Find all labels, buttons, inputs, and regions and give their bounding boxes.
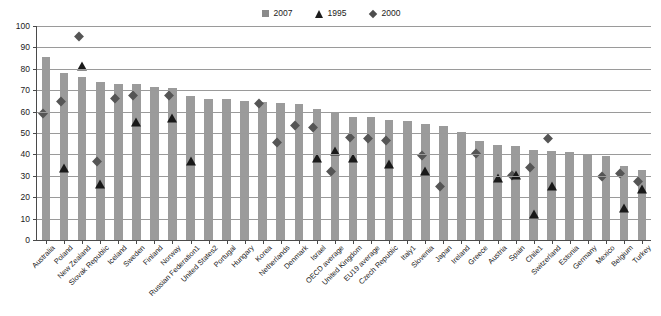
plot-area (36, 26, 651, 241)
gridline (37, 219, 651, 220)
bar-2007 (511, 146, 520, 240)
y-tick-mark (33, 90, 37, 91)
y-tick-mark (33, 219, 37, 220)
gridline (37, 154, 651, 155)
bar-2007 (403, 121, 412, 240)
chart-container: 200719952000 0102030405060708090100 Aust… (0, 0, 661, 316)
y-tick-mark (33, 240, 37, 241)
y-tick-label: 40 (21, 149, 30, 159)
y-tick-label: 0 (25, 235, 30, 245)
gridline (37, 176, 651, 177)
bar-2007 (421, 124, 430, 240)
y-tick-mark (33, 112, 37, 113)
chart-legend: 200719952000 (0, 4, 661, 22)
bar-2007 (42, 57, 51, 240)
legend-entry-2000: 2000 (368, 9, 400, 18)
y-tick-label: 20 (21, 192, 30, 202)
y-tick-label: 10 (21, 214, 30, 224)
y-tick-label: 60 (21, 107, 30, 117)
bar-2007 (565, 152, 574, 240)
marker-1995 (59, 164, 69, 173)
y-tick-mark (33, 133, 37, 134)
square-marker-icon (261, 9, 270, 18)
marker-1995 (529, 210, 539, 219)
gridline (37, 26, 651, 27)
marker-1995 (493, 173, 503, 182)
bar-2007 (547, 151, 556, 240)
x-axis-label: Austria (486, 244, 508, 266)
x-axis-label: Turkey (631, 244, 652, 265)
y-tick-mark (33, 176, 37, 177)
legend-label: 2000 (381, 9, 400, 18)
x-axis-label: Australia (31, 244, 57, 270)
legend-label: 2007 (274, 9, 293, 18)
y-tick-label: 90 (21, 42, 30, 52)
marker-1995 (637, 185, 647, 194)
y-tick-mark (33, 26, 37, 27)
y-tick-mark (33, 197, 37, 198)
diamond-marker-icon (368, 9, 377, 18)
x-axis-label: Greece (467, 244, 489, 266)
marker-1995 (384, 159, 394, 168)
y-tick-label: 70 (21, 85, 30, 95)
bar-2007 (150, 87, 159, 240)
legend-label: 1995 (328, 9, 347, 18)
x-axis-label: Spain (507, 244, 526, 263)
marker-1995 (95, 180, 105, 189)
x-axis-labels: AustraliaPolandNew ZealandSlovak Republi… (36, 244, 650, 316)
marker-1995 (131, 118, 141, 127)
gridline (37, 90, 651, 91)
y-tick-mark (33, 47, 37, 48)
y-tick-label: 80 (21, 64, 30, 74)
marker-1995 (547, 182, 557, 191)
bar-2007 (132, 84, 141, 240)
y-tick-label: 100 (16, 21, 30, 31)
y-tick-label: 30 (21, 171, 30, 181)
gridline (37, 112, 651, 113)
marker-1995 (420, 166, 430, 175)
marker-1995 (167, 113, 177, 122)
y-tick-mark (33, 69, 37, 70)
gridline (37, 47, 651, 48)
bar-2007 (493, 145, 502, 240)
legend-entry-2007: 2007 (261, 9, 293, 18)
y-tick-label: 50 (21, 128, 30, 138)
legend-entry-1995: 1995 (315, 9, 347, 18)
marker-1995 (186, 156, 196, 165)
y-tick-mark (33, 154, 37, 155)
bar-2007 (114, 84, 123, 240)
bar-2007 (457, 132, 466, 240)
y-axis: 0102030405060708090100 (0, 26, 34, 240)
gridline (37, 197, 651, 198)
triangle-marker-icon (315, 9, 324, 18)
bar-2007 (78, 77, 87, 240)
gridline (37, 69, 651, 70)
gridline (37, 133, 651, 134)
marker-1995 (619, 204, 629, 213)
